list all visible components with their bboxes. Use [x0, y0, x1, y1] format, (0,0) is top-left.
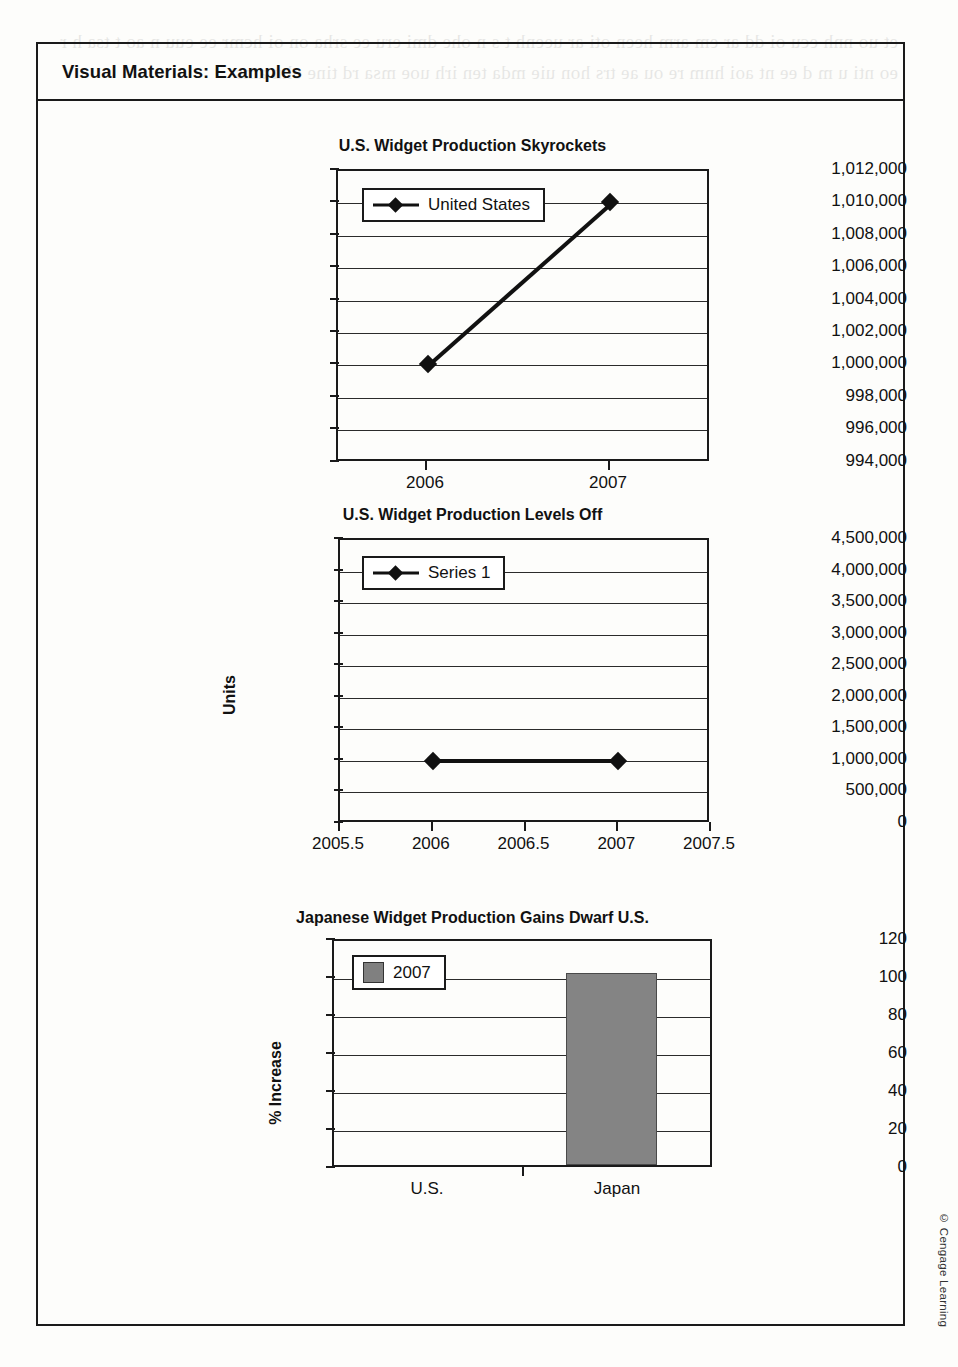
- chart-us-widget-production-levels-off: U.S. Widget Production Levels Off Units …: [38, 506, 907, 876]
- chart-2-xtick-mark: [709, 822, 711, 831]
- chart-3-bar-japan: [566, 973, 657, 1165]
- chart-1-title: U.S. Widget Production Skyrockets: [38, 137, 907, 155]
- chart-2-xtick-mark: [524, 822, 526, 831]
- chart-2-gridline: [340, 666, 707, 667]
- figure-body: U.S. Widget Production Skyrockets 1,012,…: [38, 101, 903, 1324]
- chart-2-xtick-label: 2006: [412, 834, 450, 854]
- chart-1-xtick-label: 2007: [589, 473, 627, 493]
- chart-1-gridline: [338, 333, 707, 334]
- chart-1-legend[interactable]: United States: [362, 188, 545, 222]
- chart-3-legend[interactable]: 2007: [352, 955, 446, 990]
- chart-2-xtick-label: 2005.5: [312, 834, 364, 854]
- chart-3-legend-label: 2007: [393, 963, 431, 983]
- figure-frame: Visual Materials: Examples U.S. Widget P…: [36, 42, 905, 1326]
- chart-1-gridline: [338, 430, 707, 431]
- chart-1-legend-label: United States: [428, 195, 530, 215]
- chart-2-title: U.S. Widget Production Levels Off: [38, 506, 907, 524]
- chart-2-xtick-label: 2007: [597, 834, 635, 854]
- chart-3-title: Japanese Widget Production Gains Dwarf U…: [38, 909, 907, 927]
- chart-3-xtick-mark: [522, 1167, 524, 1176]
- chart-2-xtick-label: 2007.5: [683, 834, 735, 854]
- chart-japanese-widget-production-gains: Japanese Widget Production Gains Dwarf U…: [38, 909, 907, 1249]
- chart-1-xtick-mark: [425, 461, 427, 470]
- chart-1-gridline: [338, 268, 707, 269]
- chart-3-plot-area: 2007: [332, 939, 712, 1167]
- figure-header: Visual Materials: Examples: [38, 44, 903, 101]
- chart-2-gridline: [340, 603, 707, 604]
- chart-3-yaxis-title: % Increase: [267, 1041, 285, 1125]
- line-marker-icon: [373, 198, 419, 212]
- chart-2-xtick-mark: [338, 822, 340, 831]
- chart-2-xtick-mark: [616, 822, 618, 831]
- chart-1-gridline: [338, 365, 707, 366]
- chart-us-widget-production-skyrockets: U.S. Widget Production Skyrockets 1,012,…: [38, 137, 907, 487]
- chart-2-gridline: [340, 792, 707, 793]
- chart-1-xtick-mark: [608, 461, 610, 470]
- line-marker-icon: [373, 566, 419, 580]
- chart-2-legend[interactable]: Series 1: [362, 556, 505, 590]
- chart-1-gridline: [338, 398, 707, 399]
- chart-2-gridline: [340, 698, 707, 699]
- chart-2-xtick-label: 2006.5: [498, 834, 550, 854]
- chart-1-xtick-label: 2006: [406, 473, 444, 493]
- chart-1-gridline: [338, 301, 707, 302]
- chart-3-xtick-label: U.S.: [410, 1179, 443, 1199]
- chart-2-series-line: [433, 759, 619, 763]
- chart-2-plot-area: Series 1: [338, 538, 709, 822]
- chart-2-gridline: [340, 635, 707, 636]
- chart-2-legend-label: Series 1: [428, 563, 490, 583]
- chart-2-xtick-mark: [431, 822, 433, 831]
- figure-header-title: Visual Materials: Examples: [62, 61, 302, 83]
- chart-2-data-marker: [424, 752, 442, 770]
- chart-3-xtick-label: Japan: [594, 1179, 640, 1199]
- chart-1-series-line: [426, 203, 612, 368]
- chart-2-yaxis-title: Units: [221, 675, 239, 715]
- chart-2-data-marker: [609, 752, 627, 770]
- bar-swatch-icon: [363, 962, 384, 983]
- chart-1-gridline: [338, 236, 707, 237]
- chart-2-gridline: [340, 729, 707, 730]
- copyright-notice: © Cengage Learning: [938, 1212, 950, 1327]
- chart-1-plot-area: United States: [336, 169, 709, 461]
